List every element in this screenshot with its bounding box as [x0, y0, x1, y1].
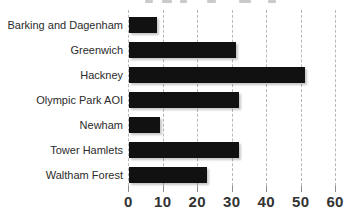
bar-waltham-forest [129, 167, 207, 184]
x-axis-tick [301, 186, 302, 192]
x-axis-tick [197, 186, 198, 192]
category-label: Olympic Park AOI [0, 92, 123, 109]
gridline [266, 10, 267, 186]
cropped-title-fragment [268, 0, 276, 3]
x-tick-label: 60 [320, 193, 350, 210]
x-tick-label: 30 [217, 193, 247, 210]
category-label: Waltham Forest [0, 167, 123, 184]
cropped-title-fragment [180, 0, 187, 3]
cropped-title-fragment [207, 0, 216, 3]
bar-hackney [129, 67, 305, 84]
bar-tower-hamlets [129, 142, 239, 159]
category-label: Barking and Dagenham [0, 17, 123, 34]
x-tick-label: 10 [148, 193, 178, 210]
bar-chart: 0102030405060 Barking and DagenhamGreenw… [0, 0, 353, 222]
x-tick-label: 50 [286, 193, 316, 210]
gridline [335, 10, 336, 186]
gridline [301, 10, 302, 186]
x-axis-tick [266, 186, 267, 192]
x-axis-tick [232, 186, 233, 192]
bar-barking-and-dagenham [129, 17, 157, 34]
category-label: Greenwich [0, 42, 123, 59]
bar-olympic-park-aoi [129, 92, 239, 109]
x-tick-label: 40 [251, 193, 281, 210]
x-tick-label: 20 [182, 193, 212, 210]
x-axis-tick [163, 186, 164, 192]
bar-newham [129, 117, 160, 134]
cropped-title-fragment [162, 0, 172, 3]
cropped-title-fragment [145, 0, 153, 3]
category-label: Tower Hamlets [0, 142, 123, 159]
category-label: Hackney [0, 67, 123, 84]
bar-greenwich [129, 42, 236, 59]
cropped-title-fragment [239, 0, 251, 3]
x-tick-label: 0 [113, 193, 143, 210]
x-axis-tick [128, 186, 129, 192]
category-label: Newham [0, 117, 123, 134]
x-axis-tick [335, 186, 336, 192]
